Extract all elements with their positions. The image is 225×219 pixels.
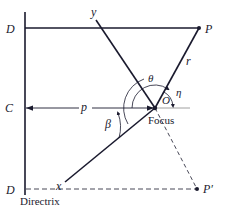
label-D-bottom: D xyxy=(5,183,15,197)
label-r: r xyxy=(186,54,191,68)
y-axis-line xyxy=(96,20,155,108)
label-eta: η xyxy=(176,86,181,98)
label-beta: β xyxy=(104,117,111,131)
label-C: C xyxy=(5,101,14,115)
label-directrix: Directrix xyxy=(20,195,60,207)
beta-angle-arc xyxy=(118,113,121,138)
label-O: O xyxy=(162,94,170,106)
label-theta: θ xyxy=(148,72,154,84)
label-P-prime: P′ xyxy=(202,182,213,196)
point-focus xyxy=(153,106,157,110)
point-P-prime xyxy=(195,187,199,191)
label-D-top: D xyxy=(5,22,15,36)
label-p: p xyxy=(80,100,87,114)
label-P: P xyxy=(204,22,213,36)
parabola-focus-directrix-diagram: D C D y P r θ η O p β Focus x P′ Directr… xyxy=(0,0,225,219)
label-y: y xyxy=(90,5,97,19)
point-P xyxy=(197,26,201,30)
label-x: x xyxy=(55,179,62,193)
label-focus: Focus xyxy=(148,114,174,126)
